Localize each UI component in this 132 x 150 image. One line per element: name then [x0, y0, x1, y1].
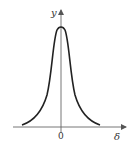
y-axis-label: y — [50, 7, 57, 18]
x-axis-label: δ — [114, 131, 120, 142]
origin-label: 0 — [58, 131, 64, 141]
bell-curve-diagram: y 0 δ — [0, 0, 132, 150]
